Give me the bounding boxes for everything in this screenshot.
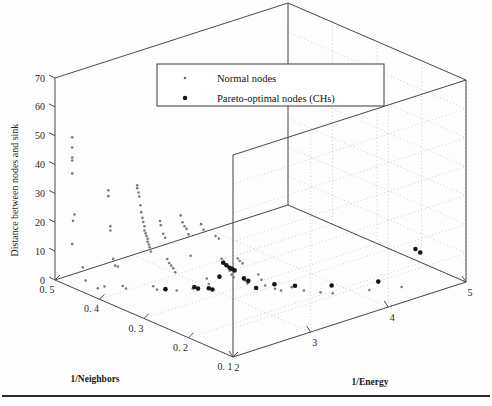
normal-node-point — [156, 288, 159, 291]
z-tick-label: 60 — [35, 101, 45, 112]
normal-node-point — [150, 250, 153, 253]
normal-node-point — [205, 277, 208, 280]
data-points-layer — [71, 136, 423, 294]
rightwall-grid-z — [233, 109, 466, 184]
normal-node-point — [164, 236, 167, 239]
axis-edge-x-back — [288, 205, 466, 282]
pareto-node-point — [246, 279, 251, 284]
pareto-node-point — [418, 250, 423, 255]
normal-node-point — [236, 257, 239, 260]
normal-node-point — [117, 265, 120, 268]
floor-grid-y — [133, 255, 311, 332]
floor-grid-x — [144, 244, 377, 319]
normal-node-point — [71, 156, 74, 159]
normal-node-point — [145, 235, 148, 238]
normal-node-point — [368, 289, 371, 292]
pareto-node-point — [254, 286, 259, 291]
pareto-node-point — [272, 282, 277, 287]
grid-lines-layer — [55, 3, 466, 357]
normal-node-point — [71, 172, 74, 175]
normal-node-point — [220, 258, 223, 261]
normal-node-point — [264, 284, 267, 287]
normal-node-point — [280, 289, 283, 292]
x-tick-label: 0. 2 — [173, 342, 188, 353]
z-tick-mark — [49, 248, 55, 251]
normal-node-point — [181, 221, 184, 224]
z-tick-mark — [49, 162, 55, 165]
pareto-node-point — [217, 274, 222, 279]
normal-node-point — [107, 195, 110, 198]
pareto-node-point — [329, 283, 334, 288]
normal-node-point — [143, 225, 146, 228]
normal-node-point — [114, 264, 117, 267]
normal-node-point — [202, 229, 205, 232]
z-tick-label: 40 — [35, 159, 45, 170]
normal-node-point — [144, 232, 147, 235]
x-tick-label: 0. 1 — [218, 361, 233, 372]
tick-labels-layer: 0102030405060700. 50. 40. 30. 20. 12345 — [35, 73, 473, 374]
scatter-plot-3d: 0102030405060700. 50. 40. 30. 20. 12345 … — [0, 0, 492, 406]
pareto-node-point — [413, 247, 418, 252]
normal-node-point — [185, 228, 188, 231]
axis-edge-y-right — [233, 282, 466, 357]
normal-node-point — [230, 273, 233, 276]
y-tick-label: 2 — [235, 362, 240, 373]
normal-node-point — [174, 271, 177, 274]
normal-node-point — [136, 184, 139, 187]
normal-node-point — [257, 273, 260, 276]
normal-node-point — [109, 225, 112, 228]
normal-node-point — [146, 238, 149, 241]
rightwall-grid-z — [233, 167, 466, 242]
normal-node-point — [162, 232, 165, 235]
z-tick-mark — [49, 219, 55, 222]
z-tick-label: 20 — [35, 217, 45, 228]
normal-node-point — [217, 237, 220, 240]
z-tick-mark — [49, 104, 55, 107]
normal-node-point — [152, 285, 155, 288]
normal-node-point — [241, 262, 244, 265]
normal-node-point — [71, 159, 74, 162]
y-tick-label: 5 — [468, 287, 473, 298]
normal-node-point — [137, 191, 140, 194]
normal-node-point — [139, 204, 142, 207]
axes-box-layer — [55, 3, 466, 357]
normal-node-point — [71, 146, 74, 149]
floor-grid-x — [189, 263, 422, 338]
x-tick-mark — [100, 294, 105, 299]
x-tick-mark — [189, 333, 194, 338]
rightwall-grid-z — [233, 195, 466, 270]
y-tick-label: 4 — [390, 312, 395, 323]
pareto-node-point — [196, 286, 201, 291]
axis-edge-y-left — [55, 205, 288, 280]
normal-node-point — [214, 235, 217, 238]
normal-node-point — [290, 286, 293, 289]
normal-node-point — [179, 214, 182, 217]
normal-node-point — [71, 243, 74, 246]
normal-node-point — [146, 240, 149, 243]
normal-node-point — [238, 260, 241, 263]
rightwall-grid-z — [233, 138, 466, 213]
y-tick-label: 3 — [312, 337, 317, 348]
figure-container: 0102030405060700. 50. 40. 30. 20. 12345 … — [0, 0, 492, 406]
legend-marker-normal-nodes — [184, 77, 187, 80]
normal-node-point — [175, 289, 178, 292]
normal-node-point — [140, 211, 143, 214]
z-tick-mark — [49, 75, 55, 78]
z-tick-mark — [49, 277, 55, 280]
normal-node-point — [81, 266, 84, 269]
normal-node-point — [141, 217, 144, 220]
normal-node-point — [107, 189, 110, 192]
normal-node-point — [125, 287, 128, 290]
normal-node-point — [319, 291, 322, 294]
normal-node-point — [72, 219, 75, 222]
pareto-node-point — [232, 268, 237, 273]
normal-node-point — [103, 285, 106, 288]
y-axis-title: 1/Energy — [352, 377, 389, 387]
normal-node-point — [97, 287, 100, 290]
z-tick-label: 50 — [35, 130, 45, 141]
normal-node-point — [189, 254, 192, 257]
z-tick-mark — [49, 133, 55, 136]
normal-node-point — [73, 213, 76, 216]
normal-node-point — [331, 292, 334, 295]
normal-node-point — [138, 195, 141, 198]
